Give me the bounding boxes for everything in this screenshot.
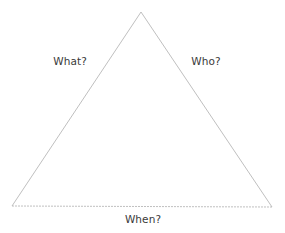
triangle-right-edge [141, 12, 272, 207]
triangle-base-edge [12, 206, 272, 207]
triangle-shape [0, 0, 285, 233]
triangle-diagram: What? Who? When? [0, 0, 285, 233]
triangle-left-edge [12, 12, 141, 206]
label-who: Who? [191, 55, 220, 67]
label-what: What? [53, 55, 87, 67]
label-when: When? [125, 213, 161, 225]
